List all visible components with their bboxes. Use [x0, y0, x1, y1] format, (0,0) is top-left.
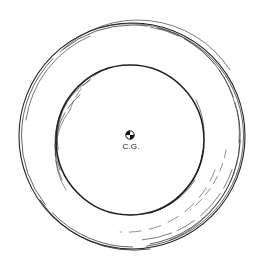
center-of-gravity-icon [126, 131, 134, 139]
cg-label: C.G. [118, 142, 144, 151]
ring-drawing [0, 0, 259, 268]
inner-ring [55, 65, 204, 215]
